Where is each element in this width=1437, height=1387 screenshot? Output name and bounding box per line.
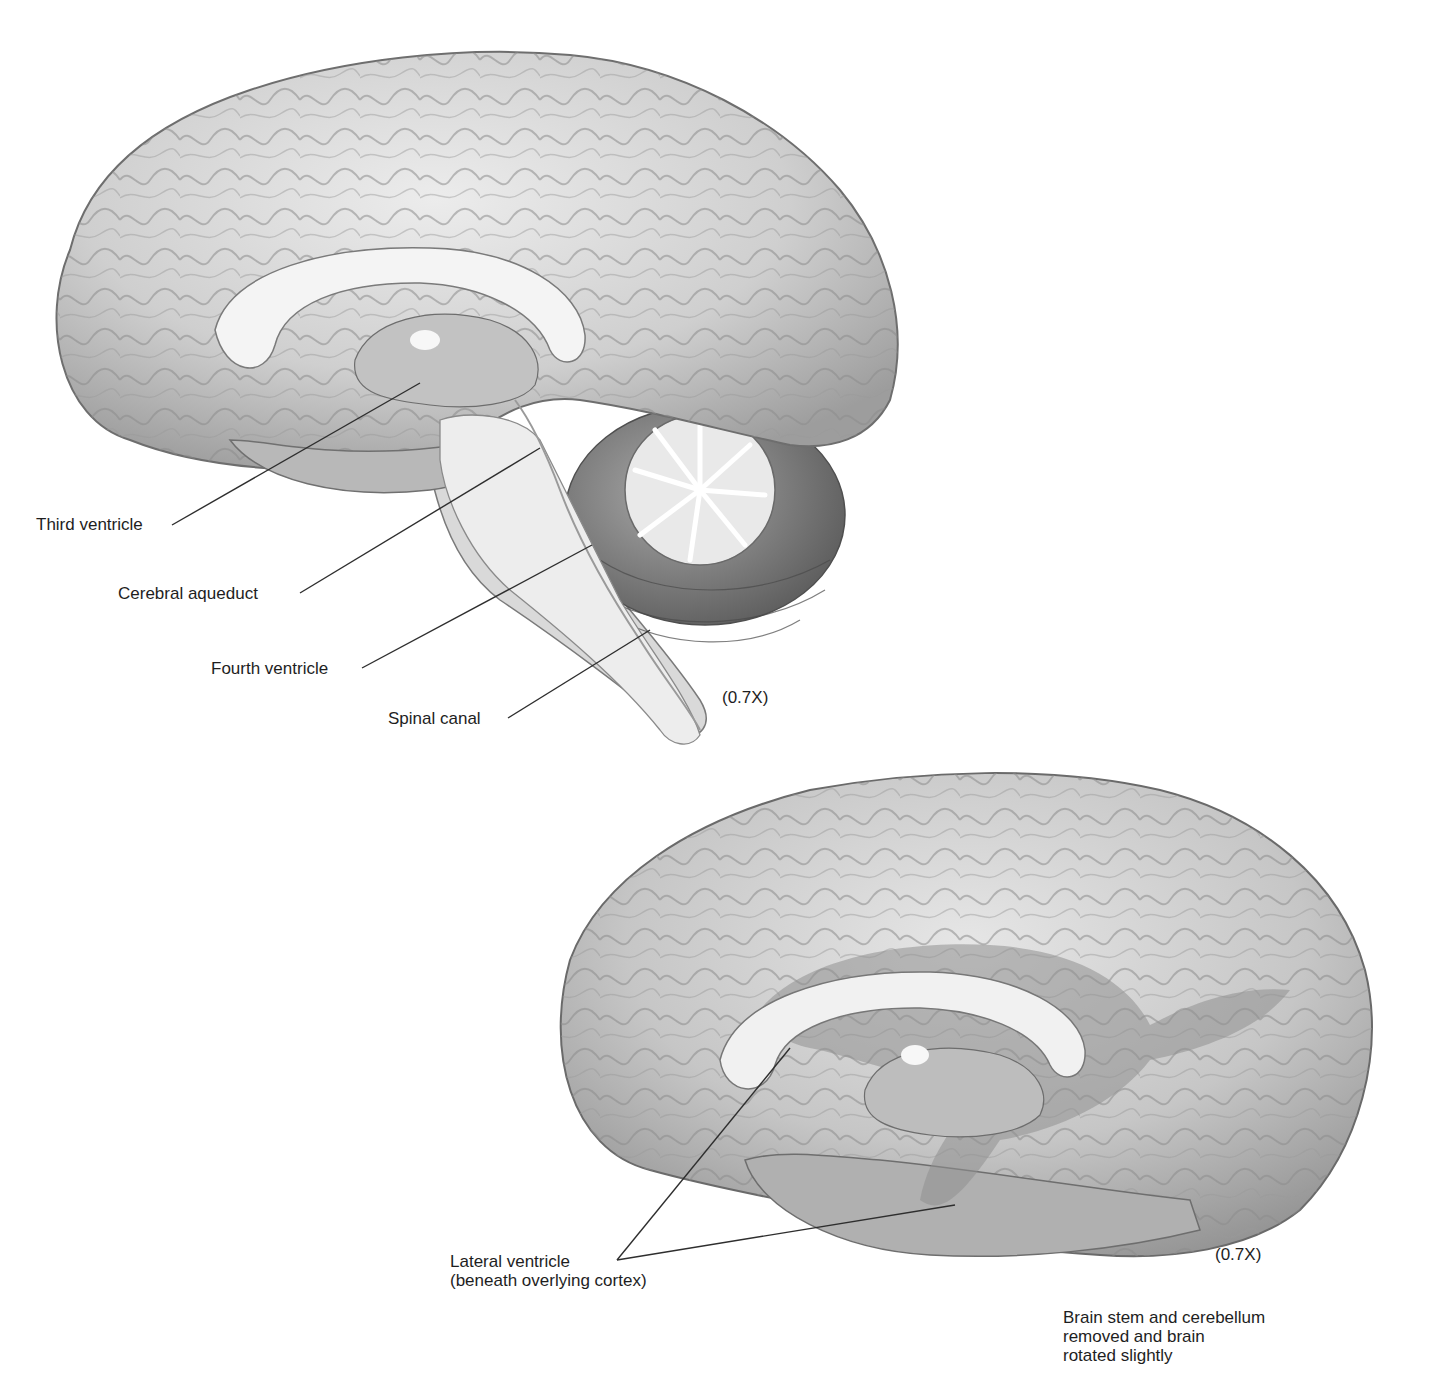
label-fourth-ventricle: Fourth ventricle [211,659,328,679]
brain-illustrations [0,0,1437,1387]
label-spinal-canal: Spinal canal [388,709,481,729]
top-brain [57,52,898,744]
caption-line3: rotated slightly [1063,1346,1265,1365]
caption-line1: Brain stem and cerebellum [1063,1308,1265,1327]
caption-line2: removed and brain [1063,1327,1265,1346]
bottom-brain [561,773,1372,1256]
label-lateral-ventricle-line2: (beneath overlying cortex) [450,1271,647,1290]
magnification-top: (0.7X) [722,688,768,708]
ventricles-figure: Third ventricle Cerebral aqueduct Fourth… [0,0,1437,1387]
label-third-ventricle: Third ventricle [36,515,143,535]
label-lateral-ventricle-line1: Lateral ventricle [450,1252,647,1271]
label-lateral-ventricle: Lateral ventricle (beneath overlying cor… [450,1252,647,1290]
magnification-bottom: (0.7X) [1215,1245,1261,1265]
figure-caption: Brain stem and cerebellum removed and br… [1063,1308,1265,1365]
label-cerebral-aqueduct: Cerebral aqueduct [118,584,258,604]
